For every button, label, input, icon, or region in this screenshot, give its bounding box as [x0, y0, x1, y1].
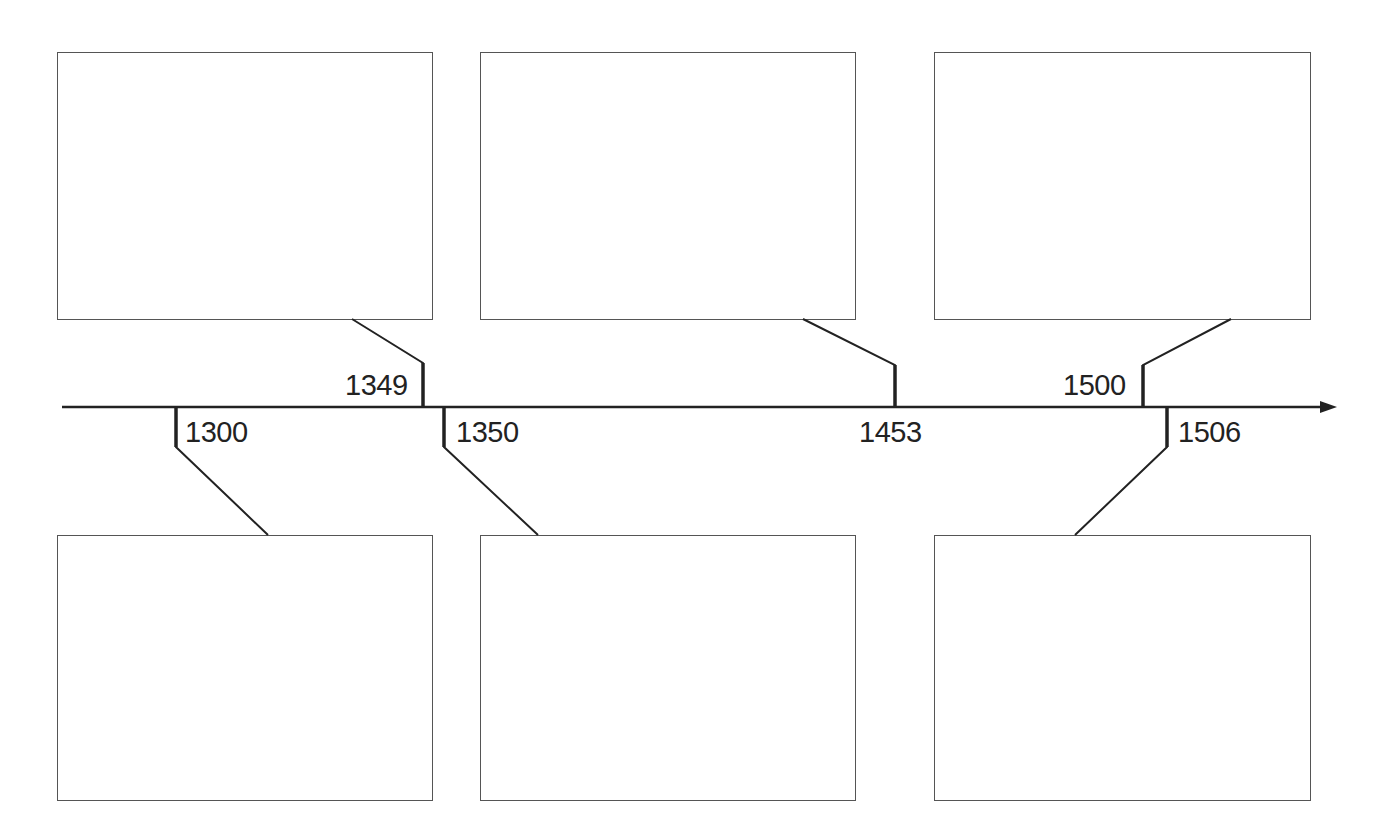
- year-label-1453: 1453: [859, 418, 922, 447]
- connector-1453: [803, 319, 895, 407]
- year-label-1506: 1506: [1178, 418, 1241, 447]
- year-label-1350: 1350: [456, 418, 519, 447]
- connector-1506: [1075, 407, 1167, 535]
- arrow-head-icon: [1320, 401, 1337, 413]
- year-label-1300: 1300: [185, 418, 248, 447]
- year-label-1500: 1500: [1063, 371, 1126, 400]
- year-label-1349: 1349: [345, 371, 408, 400]
- connector-1500: [1143, 319, 1231, 407]
